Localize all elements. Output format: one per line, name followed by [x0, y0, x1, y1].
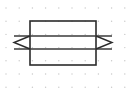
grid-dot [45, 47, 46, 48]
grid-dot [124, 47, 125, 48]
grid-dot [124, 21, 125, 22]
grid-dot [111, 21, 112, 22]
grid-dot [124, 34, 125, 35]
grid-dot [124, 73, 125, 74]
grid-dot [85, 60, 86, 61]
grid-dot [19, 73, 20, 74]
grid-dot [124, 60, 125, 61]
grid-dot [19, 34, 20, 35]
grid-dot [32, 34, 33, 35]
grid-dot [71, 34, 72, 35]
grid-dot [5, 47, 6, 48]
grid-dot [19, 87, 20, 88]
grid-dot [111, 87, 112, 88]
grid-dot [45, 34, 46, 35]
grid-dot [111, 60, 112, 61]
grid-dot [98, 87, 99, 88]
grid-dot [111, 34, 112, 35]
grid-dot [71, 73, 72, 74]
grid-dot [19, 47, 20, 48]
grid-dot [58, 7, 59, 8]
grid-dot [5, 73, 6, 74]
grid-dot [85, 73, 86, 74]
grid-dot [111, 73, 112, 74]
grid-dot [32, 60, 33, 61]
grid-dot [5, 34, 6, 35]
grid-dot [5, 87, 6, 88]
grid-dot [124, 87, 125, 88]
grid-dot [32, 87, 33, 88]
outer-rectangle [30, 21, 96, 65]
grid-dot [5, 21, 6, 22]
grid-dot [71, 60, 72, 61]
grid-dot [5, 60, 6, 61]
grid-dot [71, 7, 72, 8]
grid-dot [32, 7, 33, 8]
grid-dot [19, 7, 20, 8]
grid-dot [85, 47, 86, 48]
grid-dot [85, 34, 86, 35]
grid-dot [98, 73, 99, 74]
grid-dot [19, 60, 20, 61]
grid-dot [71, 47, 72, 48]
left-arrowhead-icon [14, 36, 30, 49]
grid-dot [124, 7, 125, 8]
drawing-svg [0, 0, 128, 88]
grid-dot [45, 7, 46, 8]
grid-dot [19, 21, 20, 22]
grid-dot [32, 47, 33, 48]
grid-dot [71, 87, 72, 88]
dot-grid [5, 7, 125, 88]
grid-dot [98, 7, 99, 8]
grid-dot [58, 73, 59, 74]
grid-dot [85, 87, 86, 88]
grid-dot [111, 47, 112, 48]
grid-dot [98, 60, 99, 61]
grid-dot [45, 73, 46, 74]
grid-dot [45, 60, 46, 61]
grid-dot [111, 7, 112, 8]
grid-dot [32, 73, 33, 74]
grid-dot [85, 7, 86, 8]
grid-dot [98, 21, 99, 22]
grid-dot [58, 47, 59, 48]
grid-dot [98, 34, 99, 35]
grid-dot [5, 7, 6, 8]
grid-dot [58, 60, 59, 61]
grid-dot [58, 87, 59, 88]
grid-dot [58, 34, 59, 35]
grid-dot [45, 87, 46, 88]
drawing-canvas [0, 0, 128, 88]
